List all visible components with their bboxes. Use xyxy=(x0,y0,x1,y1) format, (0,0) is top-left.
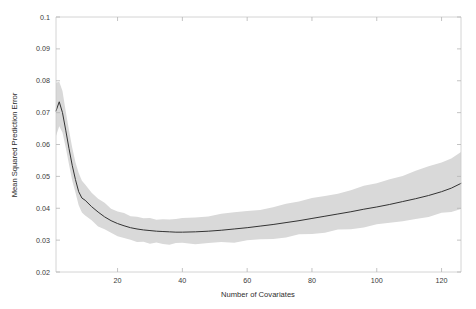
y-tick-label: 0.03 xyxy=(36,236,50,245)
y-tick-label: 0.08 xyxy=(36,76,50,85)
x-tick-label: 40 xyxy=(178,276,186,285)
x-tick-label: 60 xyxy=(243,276,251,285)
y-tick-label: 0.04 xyxy=(36,204,50,213)
chart-figure: 20406080100120 0.020.030.040.050.060.070… xyxy=(0,0,476,309)
mspe-line-chart: 20406080100120 0.020.030.040.050.060.070… xyxy=(0,0,476,309)
x-axis-title: Number of Covariates xyxy=(221,290,295,299)
x-tick-label: 20 xyxy=(114,276,122,285)
y-tick-label: 0.05 xyxy=(36,172,50,181)
y-tick-label: 0.1 xyxy=(40,13,50,22)
y-tick-label: 0.06 xyxy=(36,140,50,149)
y-axis-title: Mean Squared Prediction Error xyxy=(10,92,19,197)
y-tick-label: 0.09 xyxy=(36,44,50,53)
y-tick-label: 0.02 xyxy=(36,268,50,277)
x-tick-label: 120 xyxy=(436,276,448,285)
x-tick-label: 80 xyxy=(308,276,316,285)
y-tick-label: 0.07 xyxy=(36,108,50,117)
x-tick-label: 100 xyxy=(371,276,383,285)
